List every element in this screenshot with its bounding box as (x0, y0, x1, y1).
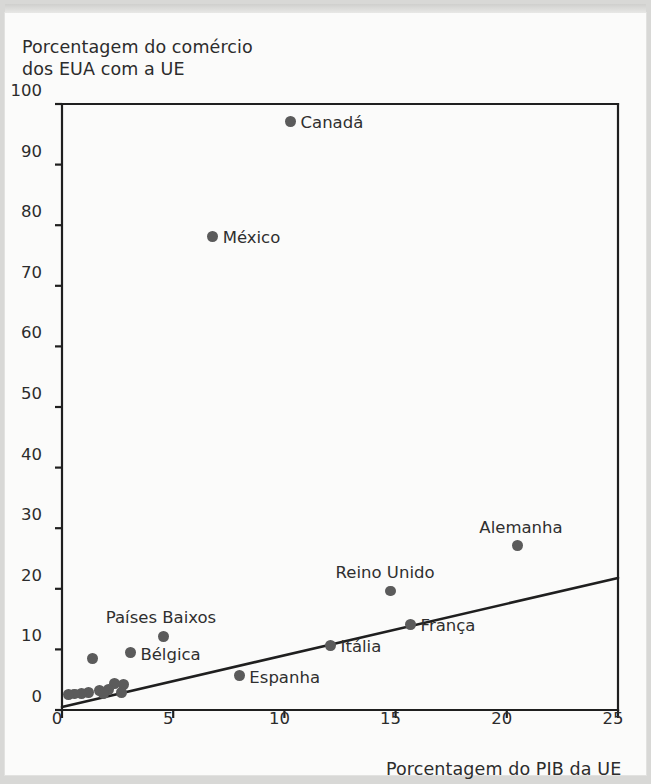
point-label: Alemanha (479, 520, 562, 537)
y-tick-label: 50 (0, 386, 42, 403)
x-tick-label: 15 (371, 711, 411, 728)
y-tick-label: 90 (0, 144, 42, 161)
data-point-b-lgica (125, 647, 136, 658)
data-point (116, 687, 127, 698)
data-point-it-lia (325, 640, 336, 651)
data-point-fran-a (405, 619, 416, 630)
data-point-pa-ses-baixos (158, 631, 169, 642)
data-point-espanha (234, 670, 245, 681)
x-tick-label: 5 (148, 711, 188, 728)
y-tick-label: 60 (0, 325, 42, 342)
scanned-page: Porcentagem do comércio dos EUA com a UE… (0, 0, 651, 784)
data-point-alemanha (512, 540, 523, 551)
point-label: França (421, 618, 476, 635)
paper-sheet: Porcentagem do comércio dos EUA com a UE… (5, 13, 646, 775)
x-tick-label: 25 (593, 711, 633, 728)
point-label: Canadá (301, 115, 364, 132)
data-point-m-xico (207, 231, 218, 242)
x-tick-label: 20 (482, 711, 522, 728)
point-label: Itália (341, 639, 382, 656)
data-point (63, 689, 74, 700)
point-label: Países Baixos (106, 610, 216, 627)
point-label: México (223, 230, 281, 247)
point-label: Espanha (249, 670, 320, 687)
y-tick-label: 0 (0, 689, 42, 706)
x-tick-label: 0 (37, 711, 77, 728)
point-label: Reino Unido (336, 565, 435, 582)
point-label: Bélgica (140, 647, 200, 664)
data-point-canad- (285, 116, 296, 127)
x-tick-label: 10 (259, 711, 299, 728)
y-tick-label: 20 (0, 568, 42, 585)
y-tick-label: 80 (0, 204, 42, 221)
y-tick-label: 70 (0, 265, 42, 282)
y-tick-label: 100 (0, 83, 42, 100)
y-tick-label: 40 (0, 447, 42, 464)
y-tick-label: 30 (0, 507, 42, 524)
y-tick-label: 10 (0, 628, 42, 645)
